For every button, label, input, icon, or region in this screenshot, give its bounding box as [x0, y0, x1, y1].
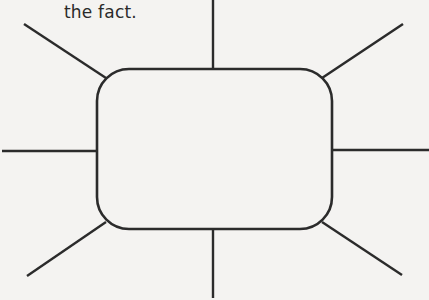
center-box	[97, 69, 332, 229]
spoke-top-left	[24, 24, 106, 78]
spoke-bottom-left	[27, 222, 106, 276]
spoke-bottom-right	[322, 222, 402, 275]
spoke-top-right	[322, 24, 403, 78]
spokes-group	[2, 0, 429, 298]
spider-diagram	[0, 0, 429, 300]
